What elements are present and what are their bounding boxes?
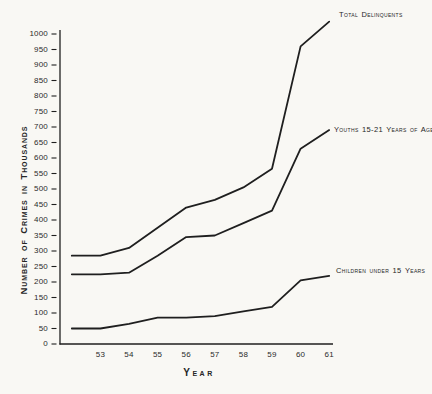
x-tick-label: 60 <box>296 350 305 360</box>
y-tick-label: 350 <box>34 231 48 241</box>
y-tick-label: 650 <box>34 138 48 148</box>
y-axis-title: Number of Crimes in Thousands <box>18 126 29 295</box>
y-tick-label: 1000 <box>29 29 48 39</box>
y-tick-label: 400 <box>34 215 48 225</box>
series-line-0 <box>72 22 329 256</box>
series-line-2 <box>72 276 329 329</box>
x-tick-label: 56 <box>182 350 191 360</box>
series-label-total-delinquents: Total Delinquents <box>339 10 403 19</box>
y-tick-label: 200 <box>34 277 48 287</box>
y-tick-label: 850 <box>34 76 48 86</box>
x-axis-title: Year <box>183 367 214 378</box>
series-label-youths-15-21: Youths 15-21 Years of Age <box>334 125 432 134</box>
series-label-children-under-15: Children under 15 Years <box>336 266 425 275</box>
x-tick-label: 58 <box>239 350 248 360</box>
x-tick-label: 53 <box>96 350 105 360</box>
y-tick-label: 600 <box>34 153 48 163</box>
y-tick-label: 700 <box>34 122 48 132</box>
y-tick-label: 450 <box>34 200 48 210</box>
y-tick-label: 800 <box>34 91 48 101</box>
x-tick-label: 55 <box>153 350 162 360</box>
y-tick-label: 0 <box>43 339 48 349</box>
y-tick-label: 50 <box>39 324 48 334</box>
x-tick-label: 57 <box>210 350 219 360</box>
y-tick-label: 900 <box>34 60 48 70</box>
y-tick-label: 950 <box>34 45 48 55</box>
y-tick-label: 250 <box>34 262 48 272</box>
x-tick-label: 61 <box>325 350 334 360</box>
x-tick-label: 54 <box>124 350 133 360</box>
y-tick-label: 150 <box>34 293 48 303</box>
y-tick-label: 750 <box>34 107 48 117</box>
y-tick-label: 300 <box>34 246 48 256</box>
y-tick-label: 500 <box>34 184 48 194</box>
y-tick-label: 100 <box>34 308 48 318</box>
crime-line-chart-page: Number of Crimes in Thousands Year 05010… <box>0 0 432 394</box>
x-tick-label: 59 <box>267 350 276 360</box>
line-chart-canvas <box>0 0 432 394</box>
y-tick-label: 550 <box>34 169 48 179</box>
